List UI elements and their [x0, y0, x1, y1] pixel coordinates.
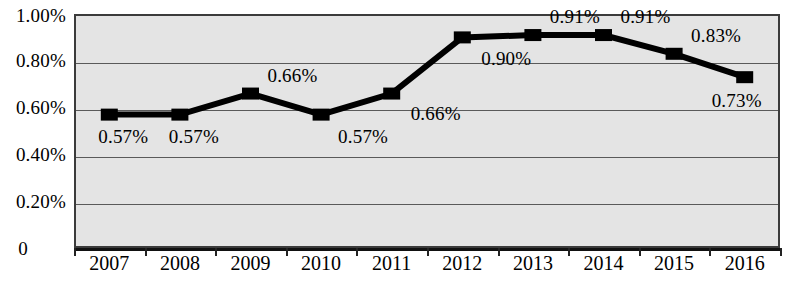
data-point-label: 0.91% [550, 6, 600, 28]
x-tick-label: 2013 [513, 252, 553, 275]
y-tick-label: 0.40% [16, 144, 66, 166]
x-tick-label: 2009 [231, 252, 271, 275]
x-axis-labels: 2007200820092010201120122013201420152016 [74, 252, 780, 283]
y-axis-labels: 1.00% 0.80% 0.60% 0.40% 0.20% 0 [0, 0, 72, 283]
x-tick-label: 2010 [301, 252, 341, 275]
data-point-label: 0.90% [481, 48, 531, 70]
y-tick-label: 1.00% [16, 5, 66, 27]
data-point-label: 0.83% [691, 25, 741, 47]
data-point-label: 0.66% [267, 65, 317, 87]
y-tick-label: 0.80% [16, 50, 66, 72]
gridline-0.40 [76, 157, 778, 158]
y-tick-label: 0.60% [16, 97, 66, 119]
gridline-0.80 [76, 63, 778, 64]
data-point-label: 0.57% [98, 126, 148, 148]
y-tick-label: 0 [18, 238, 28, 260]
line-chart: 1.00% 0.80% 0.60% 0.40% 0.20% 0 20072008… [0, 0, 785, 283]
x-tick-label: 2016 [725, 252, 765, 275]
data-point-label: 0.57% [169, 126, 219, 148]
data-point-label: 0.66% [411, 103, 461, 125]
x-tick-label: 2008 [160, 252, 200, 275]
x-tick [780, 248, 782, 256]
x-tick-label: 2007 [89, 252, 129, 275]
x-tick-label: 2012 [442, 252, 482, 275]
data-point-label: 0.91% [620, 6, 670, 28]
y-tick-label: 0.20% [16, 191, 66, 213]
data-point-label: 0.73% [712, 90, 762, 112]
x-tick-label: 2014 [584, 252, 624, 275]
gridline-0.20 [76, 204, 778, 205]
data-point-label: 0.57% [338, 126, 388, 148]
x-tick-label: 2011 [372, 252, 411, 275]
x-tick-label: 2015 [654, 252, 694, 275]
